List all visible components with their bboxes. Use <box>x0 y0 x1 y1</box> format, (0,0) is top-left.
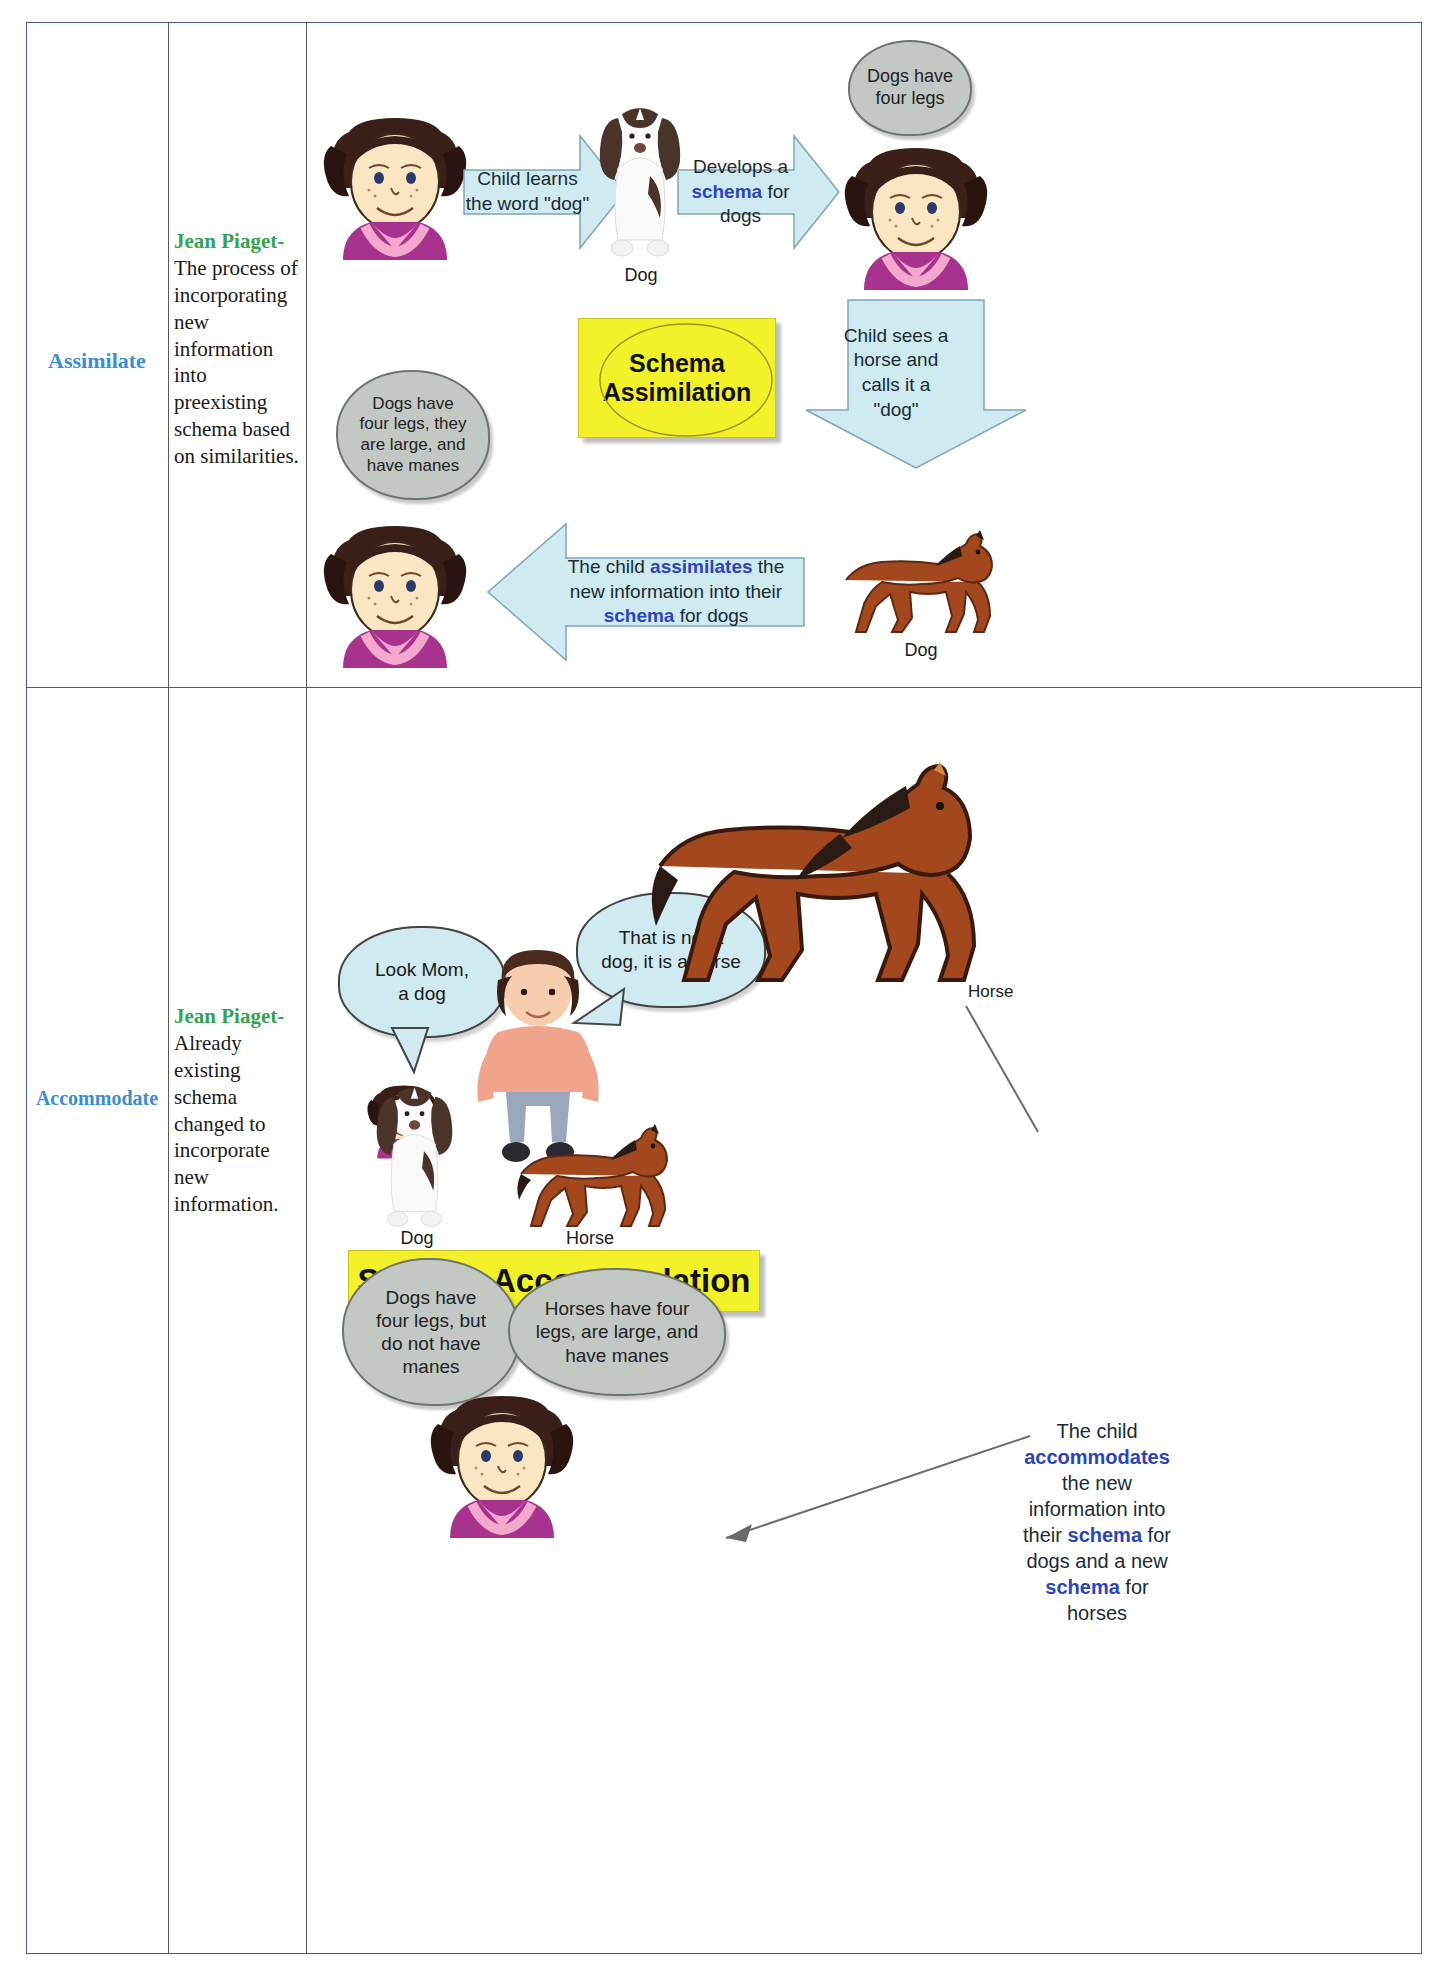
horse-row2-icon <box>512 1122 682 1232</box>
definition-accommodate: Jean Piaget- Already existing schema cha… <box>174 1003 300 1218</box>
dog-photo-bottom-icon <box>365 1078 465 1233</box>
cloud-dogs-have-four-legs: Dogs have four legs <box>848 40 972 136</box>
caption-horse-row2: Horse <box>550 1228 630 1249</box>
caption-dog-bottom: Dog <box>880 640 962 661</box>
definition-body-accommodate: Already existing schema changed to incor… <box>174 1031 278 1216</box>
connector-arrow-text-to-girl <box>700 1430 1040 1550</box>
definition-assimilate: Jean Piaget- The process of incorporatin… <box>174 228 300 470</box>
arrow-child-assimilates <box>486 522 806 662</box>
caption-dog-top: Dog <box>600 265 682 286</box>
page-root: Assimilate Jean Piaget- The process of i… <box>0 0 1447 1981</box>
speech-bubble-look-mom-tail <box>388 1026 444 1076</box>
girl-face-top-right-icon <box>846 140 986 290</box>
table-column-divider-2 <box>306 22 307 1954</box>
cloud-dogs-no-manes: Dogs have four legs, but do not have man… <box>342 1258 520 1406</box>
girl-face-row2-bottom-icon <box>432 1388 572 1538</box>
term-assimilate: Assimilate <box>28 348 166 374</box>
cloud-dogs-four-legs-large-manes: Dogs have four legs, they are large, and… <box>336 370 490 500</box>
table-column-divider-1 <box>168 22 169 1954</box>
connector-line-horse-to-text <box>960 1000 1080 1140</box>
caption-horse-top: Horse <box>968 982 1058 1002</box>
definition-author-accommodate: Jean Piaget- <box>174 1004 284 1028</box>
girl-face-bottom-left-icon <box>325 518 465 668</box>
term-accommodate: Accommodate <box>28 1087 166 1110</box>
girl-face-top-left-icon <box>325 110 465 260</box>
horse-large-icon <box>652 762 982 992</box>
arrow-develops-schema <box>676 130 841 255</box>
banner-ellipse-decoration <box>578 318 776 438</box>
definition-body-assimilate: The process of incorporating new informa… <box>174 256 299 468</box>
caption-dog-row2: Dog <box>382 1228 452 1249</box>
horse-small-icon <box>842 528 1002 638</box>
arrow-child-sees-horse <box>800 298 1030 470</box>
cloud-horses-have-manes: Horses have four legs, are large, and ha… <box>508 1268 726 1396</box>
table-row-divider <box>26 687 1422 688</box>
definition-author-assimilate: Jean Piaget- <box>174 229 284 253</box>
